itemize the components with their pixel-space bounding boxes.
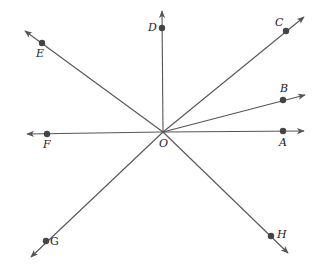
ray-oe [25,31,163,132]
point-g [43,238,49,244]
point-label-a: A [278,136,287,149]
point-h [268,233,274,239]
ray-oc [163,17,304,132]
point-e [39,40,45,46]
point-label-d: D [147,21,157,34]
point-f [44,131,50,137]
point-c [283,28,289,34]
rays-layer [25,11,305,257]
point-b [280,97,286,103]
points-layer [39,25,289,244]
rays-diagram: O A B C D E F G H [0,0,317,271]
point-d [159,25,165,31]
point-label-h: H [276,228,287,241]
point-label-f: F [42,138,51,151]
point-a [280,128,286,134]
point-label-g: G [50,235,59,248]
origin-label: O [159,137,168,150]
diagram-svg: O A B C D E F G H [0,0,317,271]
point-label-c: C [275,16,284,29]
point-label-e: E [35,47,44,60]
point-label-b: B [279,82,288,95]
